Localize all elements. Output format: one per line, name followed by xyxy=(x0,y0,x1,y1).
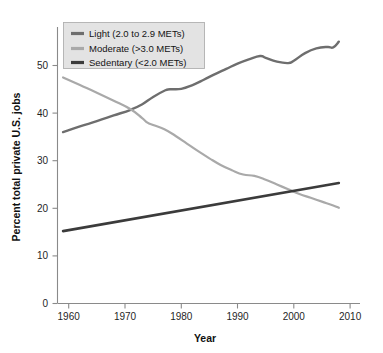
y-tick-label-50: 50 xyxy=(37,60,49,71)
series-line-moderate xyxy=(63,77,339,207)
y-axis-ticks xyxy=(53,66,58,304)
y-tick-label-20: 20 xyxy=(37,203,49,214)
y-tick-label-40: 40 xyxy=(37,108,49,119)
y-tick-label-30: 30 xyxy=(37,155,49,166)
x-tick-label-1990: 1990 xyxy=(226,311,249,322)
x-tick-label-2000: 2000 xyxy=(283,311,306,322)
data-series-group xyxy=(63,42,339,231)
series-line-sedentary xyxy=(63,183,339,231)
chart-legend[interactable]: Light (2.0 to 2.9 METs) Moderate (>3.0 M… xyxy=(64,23,205,69)
x-axis-title: Year xyxy=(194,332,216,344)
y-tick-label-0: 0 xyxy=(42,298,48,309)
x-tick-label-1970: 1970 xyxy=(114,311,137,322)
x-axis-ticks xyxy=(69,304,350,309)
x-tick-label-2010: 2010 xyxy=(339,311,362,322)
chart-figure: 0 10 20 30 40 50 1960 1970 1980 1990 200… xyxy=(0,0,383,353)
x-tick-label-1980: 1980 xyxy=(170,311,193,322)
y-axis-tick-labels: 0 10 20 30 40 50 xyxy=(37,60,49,309)
line-chart: 0 10 20 30 40 50 1960 1970 1980 1990 200… xyxy=(0,0,383,353)
legend-label-moderate: Moderate (>3.0 METs) xyxy=(89,43,183,54)
x-axis-tick-labels: 1960 1970 1980 1990 2000 2010 xyxy=(58,311,362,322)
y-tick-label-10: 10 xyxy=(37,250,49,261)
legend-label-light: Light (2.0 to 2.9 METs) xyxy=(89,28,185,39)
y-axis-title: Percent total private U.S. jobs xyxy=(10,92,22,241)
legend-label-sedentary: Sedentary (<2.0 METs) xyxy=(89,57,186,68)
x-tick-label-1960: 1960 xyxy=(58,311,81,322)
